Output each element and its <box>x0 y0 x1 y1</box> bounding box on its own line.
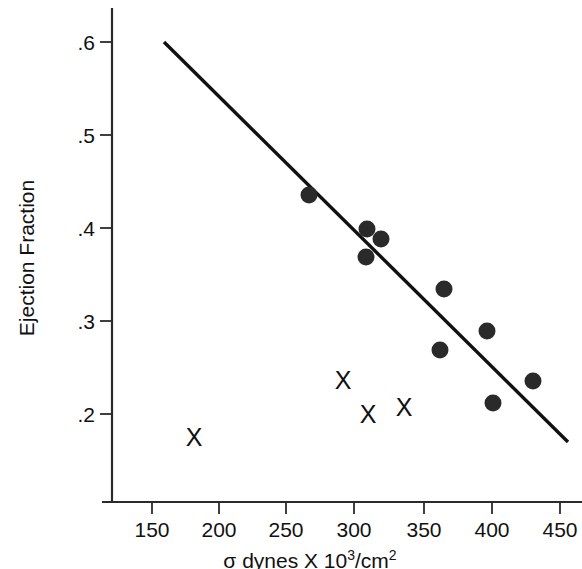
x-axis-ticks <box>152 502 560 514</box>
y-axis-title: Ejection Fraction <box>15 180 38 336</box>
x-axis-title-denominator-exponent: 2 <box>389 547 397 563</box>
data-point-x-marker: X <box>360 400 377 428</box>
x-axis-title-exponent: 3 <box>347 547 355 563</box>
y-tick-label-0.2: .2 <box>77 403 95 426</box>
y-tick-label-0.6: .6 <box>77 31 95 54</box>
data-point-circle <box>359 221 376 238</box>
x-tick-label-250: 250 <box>268 518 303 541</box>
data-point-x-marker: X <box>335 366 352 394</box>
x-tick-label-450: 450 <box>542 518 577 541</box>
y-axis-ticks <box>100 42 112 414</box>
x-axis-title-base: σ dynes X 10 <box>223 549 347 569</box>
x-axis-title-denominator: /cm <box>355 549 389 569</box>
x-axis-title: σ dynes X 103/cm2 <box>223 547 397 569</box>
data-point-circle <box>432 342 449 359</box>
y-tick-label-0.5: .5 <box>77 124 95 147</box>
data-point-circle <box>358 249 375 266</box>
data-point-circle <box>373 231 390 248</box>
x-tick-label-300: 300 <box>336 518 371 541</box>
x-marker-series: X X X X <box>186 366 413 451</box>
y-tick-label-0.3: .3 <box>77 310 95 333</box>
x-axis: 150 200 250 300 350 400 450 σ dynes X 10… <box>102 502 582 569</box>
data-point-x-marker: X <box>396 393 413 421</box>
regression-line <box>164 42 568 442</box>
data-point-circle <box>479 323 496 340</box>
x-tick-label-350: 350 <box>406 518 441 541</box>
y-axis: .6 .5 .4 .3 .2 Ejection Fraction <box>15 8 112 502</box>
data-point-circle <box>301 187 318 204</box>
data-point-circle <box>525 373 542 390</box>
data-point-circle <box>436 281 453 298</box>
x-tick-label-200: 200 <box>201 518 236 541</box>
x-tick-label-150: 150 <box>134 518 169 541</box>
scatter-plot-figure: .6 .5 .4 .3 .2 Ejection Fraction 150 <box>0 0 582 569</box>
y-tick-label-0.4: .4 <box>77 217 95 240</box>
data-point-circle <box>485 395 502 412</box>
data-point-x-marker: X <box>186 423 203 451</box>
x-tick-label-400: 400 <box>474 518 509 541</box>
plot-canvas: .6 .5 .4 .3 .2 Ejection Fraction 150 <box>0 0 582 569</box>
